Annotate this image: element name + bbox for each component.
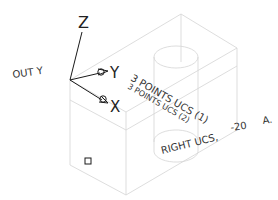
y-axis-line bbox=[70, 73, 100, 80]
y-axis-label: Y bbox=[109, 64, 120, 82]
origin-square-marker-icon bbox=[85, 158, 91, 164]
x-axis-line bbox=[70, 80, 102, 100]
cylinder-top-ellipse bbox=[154, 46, 198, 68]
ucs-icon: Z Y X bbox=[70, 13, 120, 116]
view-direction-label: OUT Y bbox=[12, 65, 45, 80]
x-axis-label: X bbox=[110, 98, 120, 116]
z-axis-line bbox=[70, 32, 82, 80]
annotation-dimension: -20 bbox=[230, 120, 248, 133]
box-edge-bottom-left bbox=[70, 165, 126, 195]
annotation-suffix: A. bbox=[262, 114, 273, 126]
annotation-right-ucs: RIGHT UCS, bbox=[160, 131, 219, 156]
z-axis-label: Z bbox=[78, 13, 89, 32]
cad-drawing-canvas: Z Y X OUT Y 3 POINTS UCS (1) 3 POINTS UC… bbox=[0, 0, 278, 200]
